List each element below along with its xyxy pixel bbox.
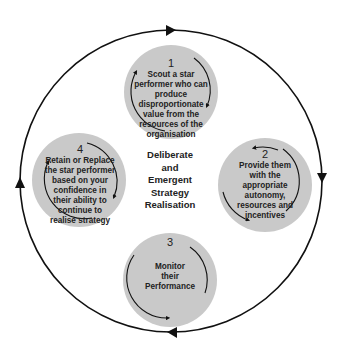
node-line: resources of the [126,120,216,130]
node-line: the star performer [35,166,125,176]
center-label: Deliberate and Emergent Strategy Realisa… [125,149,215,212]
node-3-text: 3 Monitor their Performance [130,236,210,292]
node-line: Performance [130,282,210,292]
node-3-number: 3 [130,236,210,248]
outer-arrow-top-icon [166,25,176,36]
node-line: performer who can [126,80,216,90]
node-line: Retain or Replace [35,156,125,166]
node-line: continue to [35,206,125,216]
center-label-line: Strategy [125,187,215,200]
node-4-text: 4 Retain or Replace the star performer b… [35,143,125,226]
node-1-number: 1 [126,57,216,69]
node-line: autonomy, [225,191,305,201]
node-line: appropriate [225,181,305,191]
outer-arrow-bottom-icon [167,327,177,338]
node-line: based on your [35,176,125,186]
node-line: disproportionate [126,100,216,110]
node-line: Monitor [130,262,210,272]
node-line: incentives [225,211,305,221]
outer-arrow-left-icon [15,177,25,188]
node-2-number: 2 [225,148,305,160]
node-2-text: 2 Provide them with the appropriate auto… [225,148,305,221]
node-line: produce [126,90,216,100]
node-line: confidence in [35,186,125,196]
node-line: with the [225,171,305,181]
node-4-number: 4 [35,143,125,155]
center-label-line: and [125,162,215,175]
node-1-text: 1 Scout a star performer who can produce… [126,57,216,140]
center-label-line: Deliberate [125,149,215,162]
node-line: Provide them [225,161,305,171]
node-line: their [130,272,210,282]
center-label-line: Realisation [125,199,215,212]
node-line: realise strategy [35,216,125,226]
node-line: their ability to [35,196,125,206]
node-line: Scout a star [126,70,216,80]
outer-arrow-right-icon [317,173,327,183]
node-line: organisation [126,130,216,140]
center-label-line: Emergent [125,174,215,187]
node-line: resources and [225,201,305,211]
node-line: value from the [126,110,216,120]
